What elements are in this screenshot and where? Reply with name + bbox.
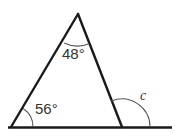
apex-angle-label: 48° bbox=[62, 46, 85, 61]
triangle-right-side bbox=[78, 14, 122, 127]
left-angle-arc bbox=[23, 109, 33, 128]
left-base-angle-label: 56° bbox=[35, 101, 58, 116]
triangle-diagram-svg bbox=[0, 0, 175, 138]
exterior-angle-label: c bbox=[140, 88, 146, 103]
geometry-figure: 48° 56° c bbox=[0, 0, 175, 138]
